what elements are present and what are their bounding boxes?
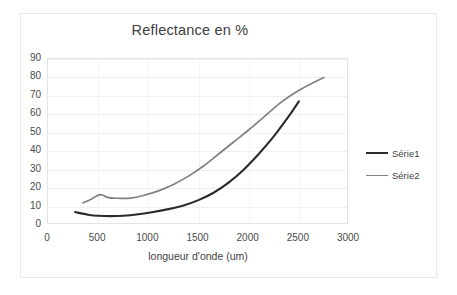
y-tick-label: 80	[13, 71, 41, 81]
chart-title: Reflectance en %	[60, 22, 320, 38]
series-lines	[48, 59, 349, 225]
y-tick-label: 40	[13, 145, 41, 155]
plot-area	[47, 58, 348, 224]
serie2-line	[83, 77, 324, 202]
y-tick-label: 10	[13, 201, 41, 211]
chart-legend: Série1Série2	[366, 142, 436, 186]
x-tick-label: 1500	[176, 233, 220, 243]
x-axis-title: longueur d'onde (um)	[118, 250, 278, 262]
y-tick-label: 0	[13, 219, 41, 229]
y-tick-label: 50	[13, 127, 41, 137]
legend-line-swatch	[366, 175, 388, 176]
y-tick-label: 60	[13, 108, 41, 118]
legend-item-label: Série1	[392, 148, 419, 159]
chart-screenshot: Reflectance en % 0102030405060708090 050…	[0, 0, 457, 295]
legend-item-label: Série2	[392, 170, 419, 181]
serie1-line	[75, 101, 299, 216]
x-tick-label: 0	[25, 233, 69, 243]
x-tick-label: 500	[75, 233, 119, 243]
y-tick-label: 20	[13, 182, 41, 192]
y-tick-label: 70	[13, 90, 41, 100]
legend-item-série1[interactable]: Série1	[366, 142, 436, 164]
x-tick-label: 2000	[226, 233, 270, 243]
x-tick-label: 2500	[276, 233, 320, 243]
x-tick-label: 3000	[326, 233, 370, 243]
y-tick-label: 30	[13, 164, 41, 174]
legend-line-swatch	[366, 152, 388, 154]
x-tick-label: 1000	[125, 233, 169, 243]
y-tick-label: 90	[13, 53, 41, 63]
legend-item-série2[interactable]: Série2	[366, 164, 436, 186]
